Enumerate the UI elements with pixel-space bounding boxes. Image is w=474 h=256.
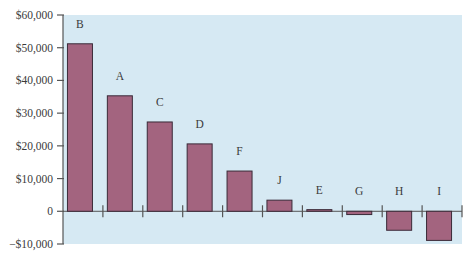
bar-label: B: [76, 18, 84, 30]
bar-C: [147, 122, 172, 211]
bar-label: J: [277, 174, 282, 186]
bar-F: [227, 171, 252, 211]
bar-J: [267, 200, 292, 211]
y-tick-label: $20,000: [16, 140, 54, 153]
y-tick-label: $10,000: [16, 173, 54, 186]
bar-label: F: [236, 145, 242, 157]
bar-D: [187, 144, 212, 211]
bar-H: [387, 211, 412, 230]
y-tick-label: $60,000: [16, 9, 54, 22]
y-tick-label: $40,000: [16, 74, 54, 87]
y-tick-label: −$10,000: [9, 238, 53, 251]
bar-chart: $60,000$50,000$40,000$30,000$20,000$10,0…: [0, 0, 474, 256]
y-tick-label: $50,000: [16, 42, 54, 55]
y-tick-label: 0: [47, 205, 53, 217]
bar-label: I: [437, 185, 441, 197]
bar-B: [67, 44, 92, 211]
bar-I: [427, 211, 452, 240]
bar-label: A: [116, 70, 125, 82]
bar-label: D: [195, 118, 203, 130]
bar-label: H: [395, 185, 403, 197]
bar-label: C: [156, 96, 164, 108]
bar-E: [307, 210, 332, 212]
bar-label: E: [316, 184, 323, 196]
bar-label: G: [355, 185, 363, 197]
y-tick-label: $30,000: [16, 107, 54, 120]
bar-A: [107, 96, 132, 211]
bar-G: [347, 211, 372, 214]
